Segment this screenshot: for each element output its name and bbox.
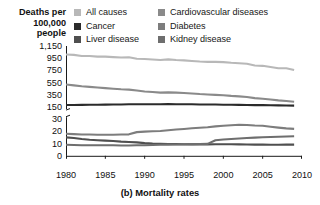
y-tick-label: 20 [22, 127, 62, 136]
y-tick-label: 10 [22, 139, 62, 148]
legend-item-label: Cancer [86, 20, 115, 34]
legend-item-all-causes[interactable]: All causes [74, 6, 158, 20]
legend-swatch-icon [158, 9, 165, 16]
plot-svg [66, 46, 302, 168]
legend-swatch-icon [74, 9, 81, 16]
legend-swatch-icon [74, 23, 81, 30]
y-tick-label: 750 [22, 66, 62, 75]
y-tick-label: 30 [22, 115, 62, 124]
legend-item-kidney[interactable]: Kidney disease [158, 33, 318, 47]
y-axis-tick-labels: 1503505507509501,1500102030 [18, 46, 62, 168]
y-tick-label: 1,150 [22, 42, 62, 51]
x-tick-label: 2000 [203, 170, 243, 180]
y-axis-title-line-3: people [0, 28, 66, 39]
legend-swatch-icon [158, 36, 165, 43]
x-tick-label: 1980 [46, 170, 86, 180]
series-line-all-causes [66, 55, 294, 71]
legend-item-diabetes[interactable]: Diabetes [158, 20, 318, 34]
y-axis-title: Deaths per 100,000 people [0, 7, 66, 39]
x-axis-tick-labels: 1980198519901995200020052010 [66, 170, 302, 182]
legend-swatch-icon [158, 23, 165, 30]
legend-item-label: Liver disease [86, 33, 139, 47]
series-line-diabetes [66, 125, 294, 135]
chart-legend: All causesCardiovascular diseasesCancerD… [74, 6, 318, 46]
axis-break-icon [66, 109, 70, 118]
legend-item-cancer[interactable]: Cancer [74, 20, 158, 34]
x-tick-label: 1990 [125, 170, 165, 180]
legend-item-cardiovascular[interactable]: Cardiovascular diseases [158, 6, 318, 20]
plot-area [66, 46, 302, 168]
series-line-cardiovascular-diseases [66, 84, 294, 101]
series-line-cancer [66, 104, 294, 105]
legend-item-liver[interactable]: Liver disease [74, 33, 158, 47]
y-axis-title-line-2: 100,000 [0, 18, 66, 29]
figure-caption: (b) Mortality rates [0, 187, 320, 198]
legend-item-label: Cardiovascular diseases [170, 6, 268, 20]
mortality-rates-figure: Deaths per 100,000 people All causesCard… [0, 0, 320, 205]
legend-item-label: Diabetes [170, 20, 206, 34]
legend-item-label: Kidney disease [170, 33, 231, 47]
legend-swatch-icon [74, 36, 81, 43]
x-tick-label: 2010 [282, 170, 320, 180]
y-tick-label: 150 [22, 103, 62, 112]
y-tick-label: 350 [22, 90, 62, 99]
x-tick-label: 2005 [243, 170, 283, 180]
y-axis-title-line-1: Deaths per [0, 7, 66, 18]
x-tick-label: 1985 [85, 170, 125, 180]
y-tick-label: 550 [22, 78, 62, 87]
legend-item-label: All causes [86, 6, 127, 20]
x-tick-label: 1995 [164, 170, 204, 180]
y-tick-label: 0 [22, 151, 62, 160]
y-tick-label: 950 [22, 54, 62, 63]
